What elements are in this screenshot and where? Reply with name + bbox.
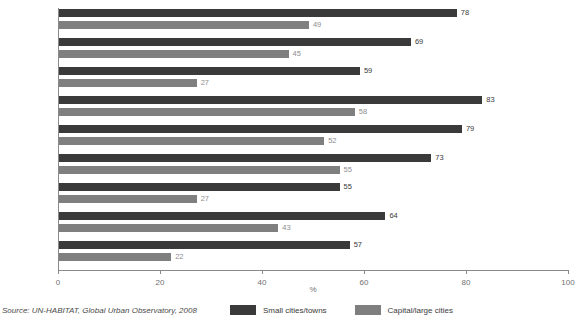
bar-value-label: 43 bbox=[282, 223, 290, 232]
legend-label: Small cities/towns bbox=[263, 306, 327, 315]
bar-value-label: 59 bbox=[364, 66, 372, 75]
plot-area: 020406080100 Benin7849Cote d'Ivoire6945G… bbox=[58, 8, 568, 270]
bar-value-label: 73 bbox=[435, 153, 443, 162]
bar-value-label: 83 bbox=[486, 95, 494, 104]
bar-dark bbox=[59, 154, 431, 162]
bar-value-label: 78 bbox=[461, 8, 469, 17]
bar-dark bbox=[59, 38, 411, 46]
bar-light bbox=[59, 108, 355, 116]
bar-dark bbox=[59, 183, 340, 191]
bar-dark bbox=[59, 212, 385, 220]
bar-light bbox=[59, 195, 197, 203]
bar-dark bbox=[59, 125, 462, 133]
bar-value-label: 27 bbox=[201, 194, 209, 203]
legend-item: Small cities/towns bbox=[230, 305, 327, 315]
bar-value-label: 27 bbox=[201, 78, 209, 87]
bar-value-label: 49 bbox=[313, 20, 321, 29]
bar-row: Benin7849 bbox=[58, 8, 568, 37]
x-tick-mark bbox=[160, 270, 161, 274]
bar-light bbox=[59, 21, 309, 29]
bar-row: Mozambique8358 bbox=[58, 95, 568, 124]
bar-dark bbox=[59, 96, 482, 104]
x-tick-mark bbox=[466, 270, 467, 274]
bar-row: Senegal7355 bbox=[58, 153, 568, 182]
bar-value-label: 57 bbox=[354, 240, 362, 249]
legend-swatch bbox=[230, 305, 256, 315]
x-tick-mark bbox=[58, 270, 59, 274]
bar-row: Guatemala5527 bbox=[58, 182, 568, 211]
bar-light bbox=[59, 166, 340, 174]
bar-light bbox=[59, 224, 278, 232]
bar-light bbox=[59, 79, 197, 87]
bar-value-label: 58 bbox=[359, 107, 367, 116]
chart-legend: Small cities/townsCapital/large cities bbox=[230, 305, 453, 315]
bar-value-label: 55 bbox=[344, 182, 352, 191]
bar-value-label: 69 bbox=[415, 37, 423, 46]
bar-value-label: 52 bbox=[328, 136, 336, 145]
chart-container: 020406080100 Benin7849Cote d'Ivoire6945G… bbox=[0, 0, 577, 328]
bar-row: Gabon5927 bbox=[58, 66, 568, 95]
bar-value-label: 55 bbox=[344, 165, 352, 174]
x-tick-mark bbox=[568, 270, 569, 274]
bar-row: Nepal5722 bbox=[58, 240, 568, 269]
legend-swatch bbox=[355, 305, 381, 315]
bar-value-label: 79 bbox=[466, 124, 474, 133]
bar-value-label: 22 bbox=[175, 252, 183, 261]
x-axis-title: % bbox=[58, 285, 568, 294]
bar-light bbox=[59, 50, 289, 58]
x-axis-line bbox=[58, 270, 568, 271]
x-tick-mark bbox=[364, 270, 365, 274]
legend-item: Capital/large cities bbox=[355, 305, 453, 315]
bar-row: Rwanda7952 bbox=[58, 124, 568, 153]
legend-label: Capital/large cities bbox=[388, 306, 453, 315]
bar-row: Nicaragua6443 bbox=[58, 211, 568, 240]
bar-dark bbox=[59, 67, 360, 75]
bar-row: Cote d'Ivoire6945 bbox=[58, 37, 568, 66]
bar-light bbox=[59, 253, 171, 261]
source-note: Source: UN-HABITAT, Global Urban Observa… bbox=[2, 306, 197, 315]
bar-dark bbox=[59, 9, 457, 17]
x-tick-mark bbox=[262, 270, 263, 274]
bar-value-label: 45 bbox=[293, 49, 301, 58]
bar-light bbox=[59, 137, 324, 145]
bar-value-label: 64 bbox=[389, 211, 397, 220]
bar-dark bbox=[59, 241, 350, 249]
